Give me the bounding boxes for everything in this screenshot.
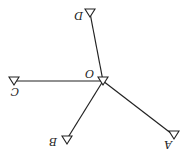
node-a-triangle-icon <box>169 131 179 139</box>
label-c: C <box>10 85 19 98</box>
node-b-triangle-icon <box>62 136 72 144</box>
label-d: D <box>74 9 84 22</box>
node-d-triangle-icon <box>85 9 95 17</box>
label-a: A <box>164 138 173 151</box>
edge-o-a <box>103 81 172 134</box>
force-diagram: O A B C D <box>0 0 188 161</box>
label-b: B <box>49 135 58 148</box>
label-o: O <box>85 67 94 80</box>
edge-o-b <box>67 81 103 139</box>
